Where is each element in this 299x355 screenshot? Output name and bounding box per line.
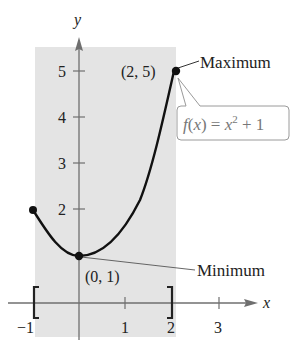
y-axis-label: y: [72, 11, 82, 29]
x-axis-arrow-icon: [244, 299, 258, 307]
y-tick-label-5: 5: [58, 63, 66, 80]
maximum-leader-line: [178, 61, 199, 68]
x-tick-label-neg1: −1: [17, 319, 34, 336]
x-tick-label-3: 3: [214, 319, 222, 336]
min-point-label: (0, 1): [85, 268, 120, 286]
endpoint-left: [29, 206, 37, 214]
maximum-point: [172, 67, 180, 75]
minimum-label: Minimum: [197, 261, 265, 280]
shaded-domain-region: [35, 47, 176, 337]
y-tick-label-3: 3: [58, 155, 66, 172]
minimum-point: [75, 252, 83, 260]
x-tick-label-1: 1: [121, 319, 129, 336]
function-equation: f(x) = x2 + 1: [183, 113, 264, 134]
x-axis-label: x: [262, 294, 270, 311]
chart: y x 5 4 3 2 −1 1 2 3 (2, 5) (0, 1) Maxim…: [0, 0, 299, 355]
x-tick-label-2: 2: [167, 319, 175, 336]
y-axis-arrow-icon: [75, 37, 83, 51]
y-tick-label-2: 2: [58, 201, 66, 218]
maximum-label: Maximum: [200, 53, 271, 72]
max-point-label: (2, 5): [121, 63, 156, 81]
y-tick-label-4: 4: [58, 109, 66, 126]
